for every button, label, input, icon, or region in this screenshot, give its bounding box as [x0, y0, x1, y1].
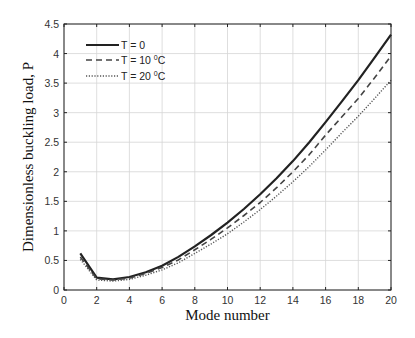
x-tick-label: 2 [94, 294, 100, 306]
y-tick-label: 2 [53, 166, 59, 178]
x-tick-label: 0 [61, 294, 67, 306]
x-axis-label: Mode number [185, 307, 270, 323]
y-tick-label: 3 [53, 107, 59, 119]
y-tick-label: 2.5 [44, 136, 59, 148]
x-tick-label: 18 [352, 294, 364, 306]
series-line [80, 56, 391, 280]
x-tick-label: 16 [320, 294, 332, 306]
y-tick-label: 0.5 [44, 254, 59, 266]
x-tick-label: 10 [222, 294, 234, 306]
y-tick-label: 4 [53, 48, 59, 60]
x-tick-label: 8 [192, 294, 198, 306]
grid-lines [64, 24, 391, 290]
x-tick-label: 14 [287, 294, 299, 306]
x-tick-label: 4 [126, 294, 132, 306]
x-tick-label: 6 [159, 294, 165, 306]
x-tick-label: 20 [385, 294, 397, 306]
axis-ticks: 0246810121416182000.511.522.533.544.5 [44, 18, 397, 306]
series-line [80, 80, 391, 281]
legend-label: T = 20 0C [121, 70, 166, 82]
legend-label: T = 10 0C [121, 54, 166, 66]
y-tick-label: 1 [53, 225, 59, 237]
x-tick-label: 12 [254, 294, 266, 306]
y-tick-label: 3.5 [44, 77, 59, 89]
legend-label: T = 0 [121, 39, 145, 51]
y-tick-label: 4.5 [44, 18, 59, 30]
y-tick-label: 0 [53, 284, 59, 296]
buckling-load-chart: 0246810121416182000.511.522.533.544.5 T … [0, 0, 415, 338]
y-axis-label: Dimensionless buckling load, P [20, 62, 36, 252]
legend: T = 0T = 10 0CT = 20 0C [86, 39, 166, 82]
y-tick-label: 1.5 [44, 195, 59, 207]
